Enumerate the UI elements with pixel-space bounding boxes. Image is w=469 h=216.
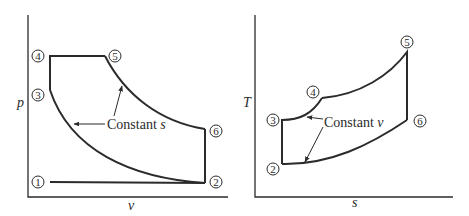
arrow-to-lower-constant-v (305, 127, 323, 162)
diagram-canvas: p v Constant s 4 5 3 6 1 2 T s Constant … (0, 0, 469, 216)
pv-diagram: p v Constant s 4 5 3 6 1 2 (16, 15, 228, 213)
ts-state-6: 6 (414, 115, 426, 127)
svg-text:3: 3 (35, 89, 41, 101)
pv-axes (28, 15, 228, 197)
arrow-to-upper-constant-v (307, 117, 323, 119)
constant-s-annotation: Constant s (107, 117, 166, 132)
v-axis-label: v (128, 198, 135, 213)
ts-axes (255, 15, 453, 197)
svg-text:6: 6 (417, 115, 423, 127)
pv-state-5: 5 (109, 50, 121, 62)
constant-v-annotation: Constant v (324, 115, 384, 130)
process-1-2 (50, 182, 205, 183)
svg-text:5: 5 (404, 36, 410, 48)
pv-state-2: 2 (210, 176, 222, 188)
svg-text:2: 2 (213, 176, 219, 188)
process-4-5-6 (322, 52, 407, 120)
ts-state-5: 5 (401, 36, 413, 48)
p-axis-label: p (16, 95, 24, 110)
s-axis-label: s (352, 195, 358, 210)
pv-state-4: 4 (32, 50, 44, 62)
process-3-4-5 (50, 56, 105, 90)
ts-diagram: T s Constant v 3 2 4 5 6 (243, 15, 453, 210)
svg-text:1: 1 (35, 176, 41, 188)
pv-state-6: 6 (210, 125, 222, 137)
arrow-to-expansion (114, 86, 122, 116)
T-axis-label: T (243, 95, 252, 110)
ts-state-2: 2 (267, 163, 279, 175)
svg-text:6: 6 (213, 125, 219, 137)
svg-text:4: 4 (310, 86, 316, 98)
pv-state-1: 1 (32, 176, 44, 188)
svg-text:3: 3 (270, 114, 276, 126)
svg-text:4: 4 (35, 50, 41, 62)
process-2-3-4 (282, 98, 322, 164)
pv-state-3: 3 (32, 89, 44, 101)
ts-state-4: 4 (307, 86, 319, 98)
svg-text:2: 2 (270, 163, 276, 175)
process-3-2-isentropic (50, 90, 205, 183)
svg-text:5: 5 (112, 50, 118, 62)
ts-state-3: 3 (267, 114, 279, 126)
